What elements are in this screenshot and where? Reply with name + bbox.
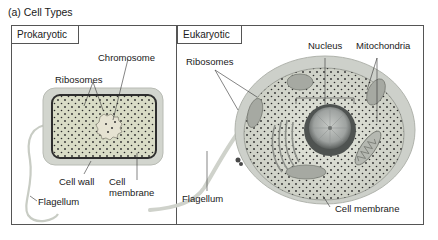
label-flagellum-eukaryotic: Flagellum: [182, 193, 223, 204]
label-ribosomes-prokaryotic: Ribosomes: [55, 74, 103, 85]
label-cell-wall: Cell wall: [59, 176, 94, 187]
label-cell-membrane-prokaryotic-2: membrane: [109, 187, 154, 198]
label-flagellum-prokaryotic: Flagellum: [38, 196, 79, 207]
label-cell-membrane-prokaryotic-1: Cell: [109, 176, 125, 187]
eukaryotic-cell: [150, 56, 415, 210]
label-ribosomes-eukaryotic: Ribosomes: [186, 56, 234, 67]
prokaryotic-header: Prokaryotic: [11, 25, 79, 44]
eukaryotic-header: Eukaryotic: [177, 25, 242, 44]
label-nucleus: Nucleus: [308, 40, 342, 51]
label-chromosome: Chromosome: [98, 52, 155, 63]
label-mitochondria: Mitochondria: [356, 40, 410, 51]
label-cell-membrane-eukaryotic: Cell membrane: [335, 203, 399, 214]
